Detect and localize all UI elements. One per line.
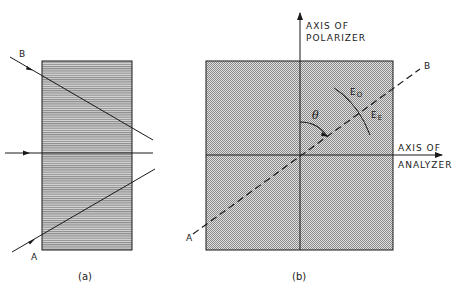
- panel-b: AXIS OF POLARIZER AXIS OF ANALYZER B A θ…: [186, 13, 452, 282]
- theta-label: θ: [312, 109, 319, 122]
- ray-normal-arrow-icon: [23, 151, 30, 156]
- polarizer-axis-label-2: POLARIZER: [306, 33, 366, 43]
- ray-a-arrow-icon: [28, 239, 35, 245]
- ray-a-label: A: [31, 252, 38, 262]
- diagram-canvas: B A (a) AXIS OF POLARIZER AXIS OF ANALYZ…: [0, 0, 464, 300]
- direction-label-b: B: [424, 61, 431, 71]
- crystal-slab: [42, 61, 132, 250]
- analyzer-axis-label-1: AXIS OF: [398, 143, 441, 153]
- panel-a-caption: (a): [78, 271, 92, 282]
- panel-a: B A (a): [5, 49, 155, 282]
- ray-b-arrow-icon: [26, 66, 33, 71]
- analyzer-axis-label-2: ANALYZER: [398, 160, 452, 170]
- ray-b-label: B: [19, 49, 26, 59]
- polarizer-axis-label-1: AXIS OF: [306, 21, 349, 31]
- direction-label-a: A: [186, 233, 193, 243]
- panel-b-caption: (b): [292, 271, 306, 282]
